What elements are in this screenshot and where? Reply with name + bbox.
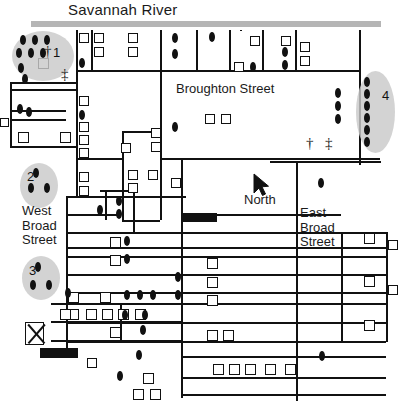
savannah-historic-map: Savannah River 1234 †‡†‡ Broughton Stree… — [0, 0, 401, 420]
site-marker-dot — [44, 183, 50, 193]
building-footprint — [234, 62, 244, 72]
site-marker-dot — [137, 290, 143, 300]
site-marker-dot — [65, 288, 71, 298]
north-label: North — [244, 193, 276, 208]
site-marker-dot — [22, 74, 28, 84]
street-line-vertical — [181, 158, 183, 398]
site-marker-dot — [364, 77, 370, 87]
street-line-vertical — [105, 190, 107, 220]
building-footprint — [79, 186, 89, 196]
street-line-horizontal — [66, 341, 386, 343]
street-line-horizontal — [66, 322, 386, 324]
site-marker-dot — [140, 325, 146, 335]
building-footprint — [229, 364, 240, 375]
site-marker-dot — [282, 60, 288, 70]
street-line-vertical — [341, 232, 343, 342]
site-marker-dot — [116, 196, 122, 206]
street-line-vertical — [76, 30, 78, 196]
broughton-street-label: Broughton Street — [176, 82, 274, 97]
site-marker-dot — [28, 48, 34, 58]
building-footprint — [79, 172, 89, 182]
site-marker-dot — [364, 101, 370, 111]
building-footprint — [148, 170, 158, 180]
site-marker-dot — [364, 113, 370, 123]
site-marker-dot — [364, 89, 370, 99]
building-footprint — [281, 36, 291, 46]
building-footprint — [128, 33, 138, 43]
street-line-horizontal — [10, 146, 76, 148]
street-line-horizontal — [122, 220, 160, 222]
street-line-horizontal — [181, 356, 386, 358]
street-line-vertical — [296, 161, 298, 401]
building-footprint — [0, 118, 9, 127]
building-footprint — [300, 56, 310, 66]
site-marker-dot — [364, 137, 370, 147]
site-marker-dot — [26, 107, 32, 117]
building-footprint — [364, 320, 375, 331]
building-footprint — [207, 258, 218, 269]
site-marker-dot — [335, 101, 341, 111]
street-line-horizontal — [181, 377, 386, 379]
street-line-vertical — [133, 190, 135, 232]
building-footprint — [207, 295, 218, 306]
site-marker-dot — [318, 178, 324, 188]
church-double-dagger-east: ‡ — [325, 136, 333, 151]
site-marker-dot — [124, 236, 130, 246]
building-footprint — [364, 276, 375, 287]
site-marker-dot — [79, 58, 85, 68]
building-footprint — [388, 285, 398, 295]
site-marker-dot — [28, 183, 34, 193]
street-line-horizontal — [76, 158, 122, 160]
street-line-horizontal — [66, 196, 186, 198]
building-footprint — [143, 373, 154, 384]
building-footprint — [150, 389, 161, 400]
building-footprint — [128, 47, 138, 57]
site-marker-dot — [35, 262, 41, 272]
building-footprint — [79, 122, 89, 132]
site-marker-dot — [20, 35, 26, 45]
building-footprint — [128, 170, 138, 180]
block-structure-center — [181, 213, 217, 222]
street-line-vertical — [229, 30, 231, 70]
building-footprint — [94, 47, 104, 57]
site-marker-dot — [33, 168, 39, 178]
street-line-vertical — [160, 158, 162, 220]
building-footprint — [79, 135, 89, 145]
street-line-vertical — [66, 196, 68, 356]
east-broad-street-label: East Broad Street — [300, 206, 335, 250]
building-footprint — [151, 142, 161, 152]
site-marker-dot — [335, 88, 341, 98]
building-footprint — [60, 309, 71, 320]
site-marker-dot — [250, 62, 256, 72]
building-footprint — [94, 33, 104, 43]
street-line-horizontal — [66, 232, 386, 234]
building-footprint — [133, 389, 144, 400]
site-marker-dot — [172, 49, 178, 59]
street-line-horizontal — [76, 70, 359, 72]
building-footprint — [245, 364, 256, 375]
street-line-horizontal — [181, 394, 386, 396]
building-footprint — [79, 96, 89, 106]
cemetery-x-symbol — [25, 322, 44, 345]
street-line-horizontal — [160, 158, 380, 160]
street-line-vertical — [91, 30, 93, 70]
building-footprint — [285, 364, 296, 375]
building-footprint — [110, 327, 121, 338]
church-dagger-east: † — [306, 136, 314, 151]
site-marker-dot — [124, 290, 130, 300]
building-footprint — [100, 292, 111, 303]
building-footprint — [250, 36, 260, 46]
building-footprint — [86, 309, 97, 320]
building-footprint — [121, 143, 131, 153]
site-marker-dot — [364, 125, 370, 135]
site-marker-dot — [116, 209, 122, 219]
building-footprint — [213, 364, 224, 375]
zone-4-number: 4 — [382, 88, 389, 103]
site-marker-dot — [17, 104, 23, 114]
zone-1-number: 1 — [53, 45, 60, 60]
street-line-vertical — [359, 30, 361, 70]
street-line-vertical — [160, 30, 162, 158]
street-line-horizontal — [66, 292, 386, 294]
building-footprint — [79, 33, 89, 43]
building-footprint — [205, 114, 215, 124]
